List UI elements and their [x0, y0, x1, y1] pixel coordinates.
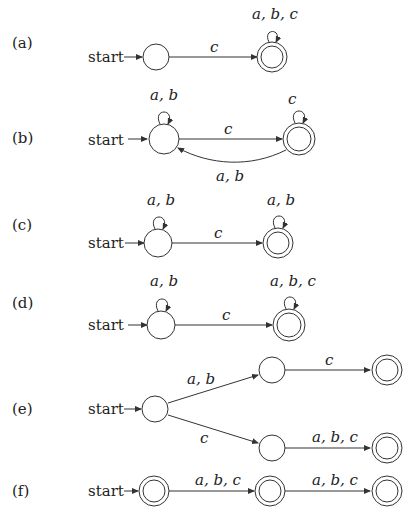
loop-label: a, b — [267, 191, 295, 209]
diagram-f: (f) start a, b, c a, b, c — [12, 471, 402, 506]
diagram-label: (a) — [12, 34, 33, 52]
diagram-label: (d) — [12, 294, 33, 312]
self-loop — [293, 111, 304, 123]
self-loop — [268, 32, 278, 43]
loop-label: c — [288, 90, 297, 108]
edge-label: c — [200, 429, 209, 447]
state-accepting-inner — [376, 480, 398, 502]
loop-label: a, b — [150, 86, 178, 104]
state-initial — [143, 44, 169, 70]
transition-edge-back — [178, 148, 286, 162]
start-label: start — [88, 316, 124, 334]
self-loop — [153, 217, 164, 229]
state-accepting-inner — [261, 46, 283, 68]
edge-label: c — [214, 224, 223, 242]
state-accepting-inner — [267, 232, 289, 254]
state-initial — [149, 124, 179, 154]
edge-label: a, b, c — [312, 428, 359, 446]
edge-label: c — [210, 38, 219, 56]
start-label: start — [88, 234, 124, 252]
diagram-label: (f) — [12, 482, 29, 500]
edge-label: a, b, c — [312, 471, 359, 489]
state-accepting-inner — [143, 480, 165, 502]
start-label: start — [88, 400, 124, 418]
start-label: start — [88, 482, 124, 500]
edge-label: a, b — [187, 370, 215, 388]
loop-label: a, b, c — [252, 5, 299, 23]
edge-label: a, b — [216, 167, 244, 185]
loop-label: a, b — [147, 191, 175, 209]
self-loop — [158, 112, 169, 124]
edge-label: c — [222, 306, 231, 324]
start-label: start — [88, 131, 124, 149]
diagram-label: (b) — [12, 129, 33, 147]
edge-label: a, b, c — [195, 471, 242, 489]
self-loop — [156, 299, 167, 311]
loop-label: a, b, c — [270, 272, 317, 290]
diagram-e: (e) start a, b c c a, b, c — [12, 351, 402, 463]
diagram-label: (e) — [12, 400, 33, 418]
diagram-d: (d) start a, b c a, b, c — [12, 272, 317, 341]
state-upper — [259, 357, 285, 383]
diagram-a: (a) start c a, b, c — [12, 5, 299, 72]
self-loop — [273, 216, 284, 228]
state-accepting-inner — [376, 437, 398, 459]
diagram-c: (c) start a, b c a, b — [12, 191, 295, 258]
state-lower — [259, 435, 285, 461]
state-initial — [142, 396, 168, 422]
state-accepting-inner — [259, 480, 281, 502]
edge-label: c — [325, 351, 334, 369]
diagram-label: (c) — [12, 216, 32, 234]
state-accepting-inner — [376, 359, 398, 381]
edge-label: c — [224, 120, 233, 138]
state-accepting-inner — [277, 313, 301, 337]
transition-edge — [168, 415, 258, 443]
state-accepting-inner — [287, 127, 311, 151]
diagram-b: (b) start a, b c c a, b — [12, 86, 315, 185]
start-label: start — [88, 48, 124, 66]
state-initial — [147, 311, 175, 339]
automata-figure: (a) start c a, b, c (b) start a, b c c a… — [0, 0, 417, 526]
loop-label: a, b — [150, 272, 178, 290]
state-initial — [144, 229, 172, 257]
self-loop — [284, 297, 295, 309]
